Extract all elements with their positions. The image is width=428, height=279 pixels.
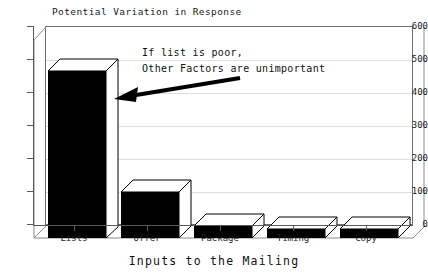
annotation-arrow-icon (108, 74, 243, 106)
x-axis-line (33, 225, 413, 226)
y-axis-label-200: 200 (398, 154, 428, 163)
x-tick-package (220, 225, 221, 231)
x-tick-copy (366, 225, 367, 231)
y-tick-100 (27, 191, 33, 192)
x-axis-label-package: Package (180, 233, 260, 243)
annotation-line-1: If list is poor, (142, 45, 243, 61)
x-tick-offer (147, 225, 148, 231)
x-axis-label-lists: Lists (34, 233, 114, 243)
chart-title: Potential Variation in Response (52, 6, 242, 17)
x-axis-label-offer: Offer (107, 233, 187, 243)
y-axis-label-600: 600 (398, 22, 428, 31)
x-axis-label-timing: Timing (253, 233, 333, 243)
y-tick-500 (27, 59, 33, 60)
y-axis-line (33, 26, 34, 225)
y-tick-300 (27, 125, 33, 126)
y-axis-label-400: 400 (398, 88, 428, 97)
y-axis-label-300: 300 (398, 121, 428, 130)
y-tick-600 (27, 26, 33, 27)
y-tick-400 (27, 92, 33, 93)
x-tick-lists (74, 225, 75, 231)
x-axis-label-copy: Copy (326, 233, 406, 243)
y-tick-200 (27, 158, 33, 159)
x-tick-timing (293, 225, 294, 231)
x-axis-title: Inputs to the Mailing (0, 254, 428, 268)
chart-canvas: Potential Variation in Response 600 500 … (0, 0, 428, 279)
y-axis-label-500: 500 (398, 55, 428, 64)
y-axis-label-100: 100 (398, 187, 428, 196)
